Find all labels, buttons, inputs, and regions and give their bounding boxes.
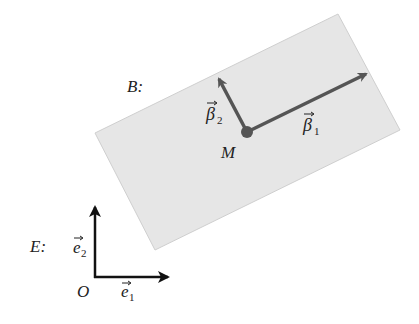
svg-text:2: 2	[217, 114, 223, 126]
point-m	[241, 126, 253, 138]
frames-diagram: B: M β 2 β 1 E: O e 2 e 1	[0, 0, 419, 324]
point-m-label: M	[220, 143, 236, 162]
svg-text:1: 1	[129, 291, 135, 303]
svg-text:2: 2	[81, 247, 87, 259]
earth-frame-label: E:	[29, 237, 46, 256]
svg-text:β: β	[205, 104, 215, 124]
origin-label: O	[77, 282, 89, 301]
svg-text:e: e	[121, 282, 129, 301]
e1-label: e 1	[121, 281, 135, 303]
svg-text:β: β	[302, 115, 312, 135]
body-frame-label: B:	[127, 77, 143, 96]
svg-text:e: e	[73, 238, 81, 257]
svg-text:1: 1	[314, 125, 320, 137]
e2-label: e 2	[73, 236, 87, 259]
